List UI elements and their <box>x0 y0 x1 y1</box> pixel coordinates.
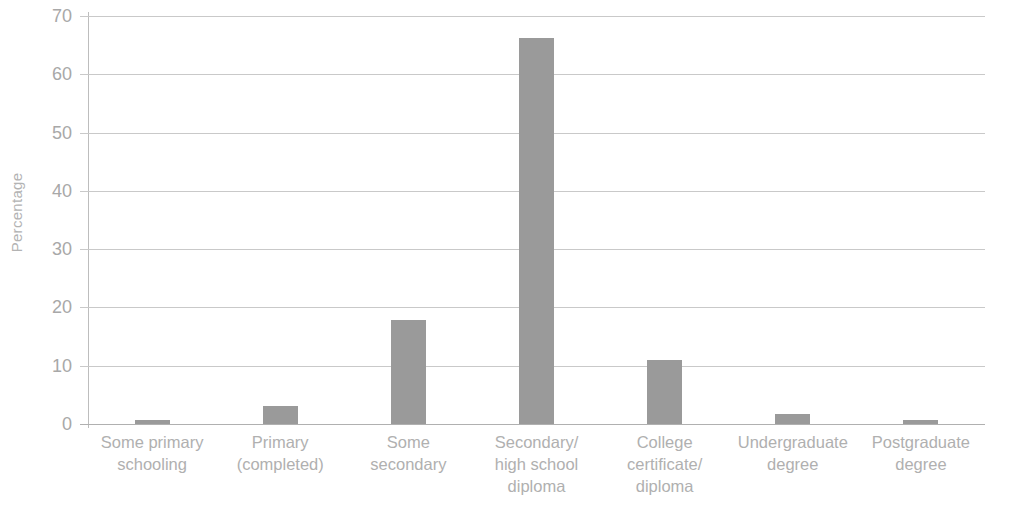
y-axis-tick-label: 50 <box>52 124 72 142</box>
y-axis-tick-labels: 010203040506070 <box>34 0 80 440</box>
y-axis-tick-label: 40 <box>52 182 72 200</box>
y-axis-tick-label: 20 <box>52 298 72 316</box>
bar[interactable] <box>647 360 682 424</box>
x-axis-tick-label: Secondary/ high school diploma <box>472 432 600 497</box>
x-axis-tick-label: Some secondary <box>344 432 472 476</box>
bar[interactable] <box>903 420 938 424</box>
bar-slot <box>88 16 216 424</box>
y-axis-tick-label: 10 <box>52 357 72 375</box>
x-axis-tick-label: Undergraduate degree <box>729 432 857 476</box>
plot-area <box>88 16 985 424</box>
bar[interactable] <box>775 414 810 424</box>
bar-slot <box>857 16 985 424</box>
bar[interactable] <box>263 406 298 424</box>
bar-slot <box>216 16 344 424</box>
bar[interactable] <box>391 320 426 424</box>
bar-slot <box>601 16 729 424</box>
y-axis-tick-label: 70 <box>52 7 72 25</box>
bars <box>88 16 985 424</box>
bar-slot <box>472 16 600 424</box>
bar-slot <box>729 16 857 424</box>
x-axis-tick-label: College certificate/ diploma <box>601 432 729 497</box>
x-axis-tick-labels: Some primary schoolingPrimary (completed… <box>88 432 985 523</box>
x-axis-tick-label: Some primary schooling <box>88 432 216 476</box>
x-axis-baseline <box>80 424 985 425</box>
bar[interactable] <box>135 420 170 424</box>
y-axis-tick-label: 0 <box>62 415 72 433</box>
y-axis-tick-label: 30 <box>52 240 72 258</box>
bar-slot <box>344 16 472 424</box>
y-axis-tick-label: 60 <box>52 65 72 83</box>
y-axis-title-text: Percentage <box>9 172 26 252</box>
x-axis-tick-label: Postgraduate degree <box>857 432 985 476</box>
y-axis-title: Percentage <box>0 0 34 424</box>
bar-chart: Percentage 010203040506070 Some primary … <box>0 0 1020 523</box>
x-axis-tick-label: Primary (completed) <box>216 432 344 476</box>
bar[interactable] <box>519 38 554 424</box>
